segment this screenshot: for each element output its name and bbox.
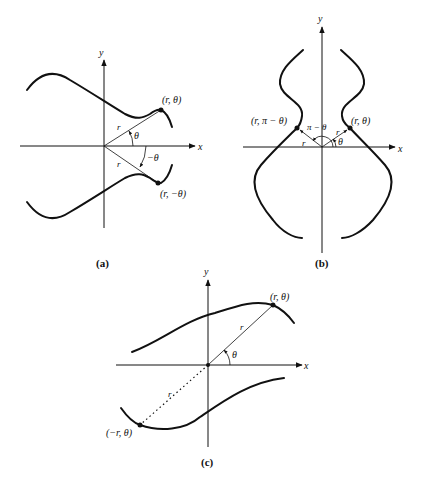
ray-neg-r-theta: [140, 365, 208, 425]
ray-label-neg-r: r: [168, 389, 172, 399]
caption-c: (c): [201, 456, 214, 469]
point-r-theta: [159, 108, 164, 113]
ray-label-r-upper: r: [117, 122, 121, 132]
angle-label-theta: θ: [338, 136, 343, 147]
angle-label-neg-theta: −θ: [147, 152, 159, 163]
point-neg-r-theta: [138, 423, 143, 428]
point-label-r-theta: (r, θ): [351, 115, 371, 127]
ray-label-r-lower: r: [117, 159, 121, 169]
angle-arc-theta: [333, 139, 336, 147]
x-axis-label: x: [303, 360, 309, 371]
point-label-r-theta: (r, θ): [162, 94, 182, 106]
left-curve: [255, 50, 303, 238]
point-label-neg-r-theta: (−r, θ): [106, 427, 133, 439]
point-r-pi-minus-theta: [295, 126, 300, 131]
x-axis-label: x: [197, 141, 203, 152]
angle-arc-theta: [129, 131, 133, 146]
polar-symmetry-figure: x y (r, θ) (r, −θ) r r θ −θ (a) x y: [0, 0, 431, 492]
angle-arc-neg-theta: [140, 146, 146, 167]
upper-curve: [27, 74, 172, 127]
y-axis-label: y: [98, 47, 104, 58]
angle-label-theta: θ: [232, 349, 237, 360]
panel-b: x y (r, θ) (r, π − θ) r r π − θ θ (b): [243, 13, 403, 270]
x-axis-label: x: [397, 143, 403, 154]
ray-r-theta: [322, 130, 347, 147]
panel-c: x y (r, θ) (−r, θ) r r θ (c): [106, 266, 309, 469]
right-curve: [341, 50, 391, 238]
origin-point: [206, 363, 210, 367]
caption-a: (a): [96, 257, 109, 270]
ray-r-theta: [208, 305, 273, 365]
y-axis-label: y: [203, 266, 209, 277]
angle-arc-theta: [224, 350, 230, 365]
point-label-r-neg-theta: (r, −θ): [160, 188, 187, 200]
point-r-theta: [348, 126, 353, 131]
lower-curve: [27, 165, 172, 218]
caption-b: (b): [315, 257, 329, 270]
angle-label-theta: θ: [134, 130, 139, 141]
lower-curve: [121, 378, 284, 429]
angle-label-pi-minus-theta: π − θ: [307, 122, 327, 132]
point-r-theta: [271, 303, 276, 308]
y-axis-label: y: [317, 13, 323, 24]
point-label-r-theta: (r, θ): [270, 291, 290, 303]
upper-curve: [132, 303, 294, 352]
panel-a: x y (r, θ) (r, −θ) r r θ −θ (a): [20, 47, 203, 270]
ray-label-r: r: [240, 322, 244, 332]
point-r-neg-theta: [156, 181, 161, 186]
point-label-r-pi-minus-theta: (r, π − θ): [251, 115, 288, 127]
ray-label-r-left: r: [302, 138, 306, 148]
